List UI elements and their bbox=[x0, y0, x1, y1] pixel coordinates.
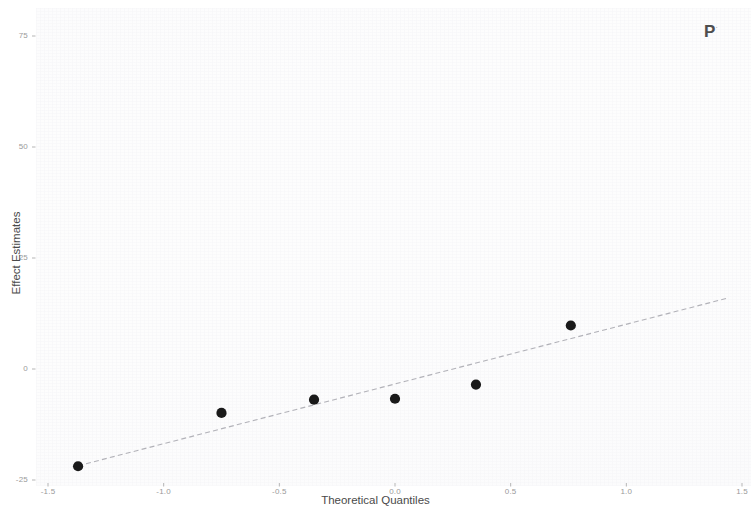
y-axis-title: Effect Estimates bbox=[10, 183, 22, 323]
y-tick-label: 0 bbox=[6, 364, 28, 373]
reference-line bbox=[78, 298, 728, 466]
x-axis-title: Theoretical Quantiles bbox=[0, 494, 751, 506]
data-point bbox=[471, 379, 481, 389]
qq-plot-figure: 7550250-25 -1.5-1.0-0.50.00.51.01.5 Theo… bbox=[0, 0, 751, 514]
y-tick-label: 50 bbox=[6, 142, 28, 151]
data-point bbox=[216, 408, 226, 418]
panel-label: P· bbox=[704, 22, 718, 42]
data-points-group bbox=[73, 320, 576, 471]
y-axis-tick-marks bbox=[32, 36, 36, 480]
data-point bbox=[390, 394, 400, 404]
y-tick-label: -25 bbox=[6, 475, 28, 484]
data-point bbox=[73, 461, 83, 471]
x-axis-tick-marks bbox=[48, 483, 742, 487]
panel-label-text: P bbox=[704, 22, 715, 41]
y-tick-label: 75 bbox=[6, 31, 28, 40]
data-point bbox=[566, 320, 576, 330]
plot-canvas bbox=[0, 0, 751, 514]
qq-reference-line bbox=[78, 298, 728, 466]
data-point bbox=[309, 395, 319, 405]
panel-label-superscript: · bbox=[715, 23, 718, 32]
